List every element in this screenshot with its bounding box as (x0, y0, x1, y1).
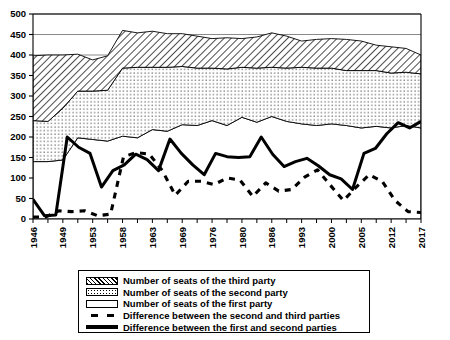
svg-text:2005: 2005 (356, 226, 367, 248)
svg-text:200: 200 (10, 131, 26, 142)
y-axis-ticks: 050100150200250300350400450500 (10, 8, 33, 224)
legend-label-second-party: Number of seats of the second party (123, 287, 288, 298)
legend-swatch-solid-line (86, 323, 118, 331)
svg-text:350: 350 (10, 70, 26, 81)
legend-item-third-party: Number of seats of the third party (86, 275, 363, 287)
legend-item-second-party: Number of seats of the second party (86, 287, 363, 299)
svg-text:1993: 1993 (296, 227, 307, 248)
legend-item-second-third-difference: Difference between the second and third … (86, 310, 363, 322)
svg-text:400: 400 (10, 49, 26, 60)
svg-text:150: 150 (10, 152, 26, 163)
svg-text:500: 500 (10, 8, 26, 19)
legend-label-first-party: Number of seats of the first party (123, 298, 272, 309)
legend-item-first-second-difference: Difference between the first and second … (86, 321, 363, 333)
svg-text:100: 100 (10, 172, 26, 183)
x-axis-tick-labels: 1946194919531958196319691976198019861993… (28, 226, 427, 248)
legend-item-first-party: Number of seats of the first party (86, 298, 363, 310)
chart-legend: Number of seats of the third party Numbe… (78, 270, 370, 333)
svg-text:1963: 1963 (147, 227, 158, 248)
svg-text:2000: 2000 (326, 227, 337, 248)
svg-text:1953: 1953 (87, 227, 98, 248)
svg-text:1980: 1980 (237, 227, 248, 248)
legend-swatch-hatched (86, 277, 118, 285)
plot-area: 050100150200250300350400450500 194619491… (0, 0, 450, 270)
svg-text:1976: 1976 (207, 227, 218, 248)
chart-root: 050100150200250300350400450500 194619491… (0, 0, 450, 340)
svg-text:300: 300 (10, 90, 26, 101)
legend-label-second-third-difference: Difference between the second and third … (123, 310, 340, 321)
svg-text:0: 0 (21, 213, 26, 224)
svg-text:250: 250 (10, 111, 26, 122)
svg-text:1949: 1949 (57, 227, 68, 248)
legend-swatch-dotted (86, 288, 118, 296)
svg-text:1958: 1958 (117, 227, 128, 248)
legend-swatch-dashed-line (86, 312, 118, 320)
svg-text:1969: 1969 (177, 227, 188, 248)
svg-text:450: 450 (10, 29, 26, 40)
x-axis-ticks (33, 219, 421, 223)
svg-text:2012: 2012 (386, 227, 397, 248)
legend-swatch-plain (86, 300, 118, 308)
svg-text:2017: 2017 (416, 227, 427, 248)
legend-label-first-second-difference: Difference between the first and second … (123, 322, 337, 333)
svg-text:1986: 1986 (266, 227, 277, 248)
svg-text:1946: 1946 (28, 227, 39, 248)
svg-text:50: 50 (15, 193, 26, 204)
legend-label-third-party: Number of seats of the third party (123, 275, 276, 286)
stacked-area-chart: 050100150200250300350400450500 194619491… (0, 0, 450, 270)
